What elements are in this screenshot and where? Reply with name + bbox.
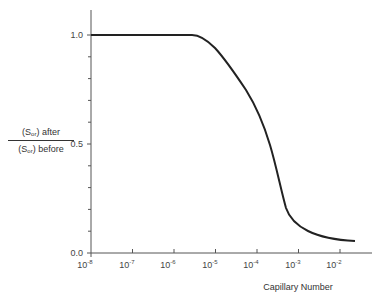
svg-text:10-7: 10-7	[119, 259, 135, 270]
y-ticks	[87, 35, 91, 253]
x-axis-title: Capillary Number	[263, 282, 333, 292]
svg-text:10-8: 10-8	[77, 259, 93, 270]
x-tick-labels: 10-8 10-7 10-6 10-5 10-4 10-3 10-2	[77, 259, 342, 270]
y-axis-title-denominator: (Sor) before	[8, 144, 74, 154]
svg-text:10-5: 10-5	[202, 259, 218, 270]
svg-text:10-4: 10-4	[243, 259, 259, 270]
data-curve	[91, 35, 355, 241]
y-axis-title-numerator: (Sor) after	[8, 127, 74, 141]
svg-text:10-3: 10-3	[285, 259, 301, 270]
svg-text:10-2: 10-2	[326, 259, 342, 270]
y-tick-label-0: 0.0	[70, 248, 83, 258]
y-tick-label-1: 1.0	[70, 30, 83, 40]
svg-text:10-6: 10-6	[160, 259, 176, 270]
y-axis-title: (Sor) after (Sor) before	[8, 127, 74, 154]
